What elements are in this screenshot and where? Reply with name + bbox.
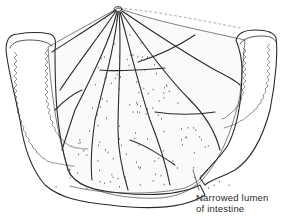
stipple-dot — [101, 58, 102, 60]
stipple-dot — [164, 184, 165, 186]
annotation-narrowed-lumen-line2: of intestine — [196, 203, 244, 214]
stipple-dot — [133, 54, 134, 56]
mesentery-fan — [48, 8, 245, 198]
stipple-dot — [139, 144, 140, 146]
stipple-dot — [100, 106, 101, 108]
stipple-dot — [106, 117, 107, 119]
stipple-dot — [148, 93, 149, 95]
stipple-dot — [92, 142, 93, 144]
stipple-dot — [79, 139, 80, 141]
stipple-dot — [112, 174, 113, 176]
stipple-dot — [125, 176, 126, 178]
stipple-dot — [201, 139, 202, 141]
stipple-dot — [214, 185, 215, 187]
stipple-dot — [113, 176, 114, 178]
stipple-dot — [79, 143, 80, 145]
stipple-dot — [177, 167, 178, 169]
stipple-dot — [87, 188, 88, 190]
stipple-dot — [126, 181, 127, 183]
stipple-dot — [161, 118, 162, 120]
stipple-dot — [153, 89, 154, 91]
stipple-dot — [153, 107, 154, 109]
stipple-dot — [161, 175, 162, 177]
stipple-dot — [219, 181, 220, 183]
stipple-dot — [155, 174, 156, 176]
stipple-dot — [199, 136, 200, 138]
stipple-dot — [193, 127, 194, 129]
stipple-dot — [89, 130, 90, 132]
stipple-dot — [102, 98, 103, 100]
stipple-dot — [137, 111, 138, 113]
stipple-dot — [98, 67, 99, 69]
stipple-dot — [119, 88, 120, 90]
stipple-dot — [141, 42, 142, 44]
stipple-dot — [80, 142, 81, 144]
stipple-dot — [134, 138, 135, 140]
stipple-dot — [129, 104, 130, 106]
stipple-dot — [186, 136, 187, 138]
stipple-dot — [105, 149, 106, 151]
stipple-dot — [194, 152, 195, 154]
stipple-dot — [195, 129, 196, 131]
stipple-dot — [136, 162, 137, 164]
stipple-dot — [140, 167, 141, 169]
stipple-dot — [113, 158, 114, 160]
stipple-dot — [119, 186, 120, 188]
stipple-dot — [188, 127, 189, 129]
stipple-dot — [125, 31, 126, 33]
stipple-dot — [208, 145, 209, 147]
stipple-dot — [147, 56, 148, 58]
mesentery-illustration — [0, 0, 282, 218]
stipple-dot — [111, 83, 112, 85]
stipple-dot — [92, 107, 93, 109]
stipple-dot — [164, 97, 165, 99]
stipple-dot — [98, 160, 99, 162]
left-intestine-loop-rim — [10, 40, 52, 48]
stipple-dot — [154, 160, 155, 162]
stipple-dot — [110, 181, 111, 183]
stipple-dot — [164, 131, 165, 133]
stipple-dot — [136, 102, 137, 104]
stipple-dot — [139, 112, 140, 114]
stipple-dot — [99, 141, 100, 143]
stipple-dot — [173, 160, 174, 162]
stipple-dot — [119, 125, 120, 127]
stipple-dot — [145, 59, 146, 61]
stipple-dot — [136, 81, 137, 83]
stipple-dot — [117, 74, 118, 76]
stipple-dot — [140, 105, 141, 107]
stipple-dot — [104, 56, 105, 58]
stipple-dot — [104, 182, 105, 184]
stipple-dot — [201, 175, 202, 177]
stipple-dot — [107, 101, 108, 103]
stipple-dot — [195, 177, 196, 179]
stipple-dot — [130, 34, 131, 36]
stipple-dot — [193, 167, 194, 169]
stipple-dot — [153, 180, 154, 182]
stipple-dot — [78, 154, 79, 156]
stipple-dot — [178, 102, 179, 104]
stipple-dot — [147, 108, 148, 110]
stipple-dot — [118, 178, 119, 180]
stipple-dot — [70, 177, 71, 179]
stipple-dot — [158, 158, 159, 160]
stipple-dot — [108, 152, 109, 154]
stipple-dot — [144, 69, 145, 71]
stipple-dot — [182, 144, 183, 146]
stipple-dot — [98, 145, 99, 147]
stipple-dot — [114, 43, 115, 45]
stipple-dot — [127, 59, 128, 61]
stipple-dot — [130, 54, 131, 56]
stipple-dot — [133, 111, 134, 113]
annotation-narrowed-lumen-line1: Narrowed lumen — [196, 192, 269, 203]
stipple-dot — [146, 113, 147, 115]
stipple-dot — [208, 187, 209, 189]
stipple-dot — [77, 172, 78, 174]
stipple-dot — [143, 88, 144, 90]
stipple-dot — [163, 150, 164, 152]
stipple-dot — [100, 181, 101, 183]
stipple-dot — [166, 84, 167, 86]
stipple-dot — [158, 114, 159, 116]
stipple-dot — [115, 78, 116, 80]
stipple-dot — [139, 168, 140, 170]
